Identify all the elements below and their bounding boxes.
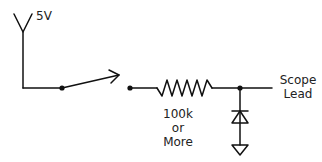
resistor-value-label: 100k or More — [155, 107, 201, 149]
switch-icon — [62, 70, 119, 88]
scope-lead-line2: Lead — [275, 87, 321, 101]
resistor-icon — [157, 80, 212, 96]
junction-dot — [237, 85, 242, 90]
ground-icon — [232, 145, 248, 155]
scope-lead-label: Scope Lead — [275, 73, 321, 101]
switch-contact-dot — [127, 85, 132, 90]
diode-icon — [232, 88, 248, 145]
scope-lead-line1: Scope — [275, 73, 321, 87]
resistor-value-line2: or — [155, 121, 201, 135]
switch-pivot-dot — [59, 85, 64, 90]
supply-label: 5V — [36, 9, 52, 23]
supply-symbol-icon — [14, 14, 32, 88]
resistor-value-line3: More — [155, 135, 201, 149]
resistor-value-line1: 100k — [155, 107, 201, 121]
